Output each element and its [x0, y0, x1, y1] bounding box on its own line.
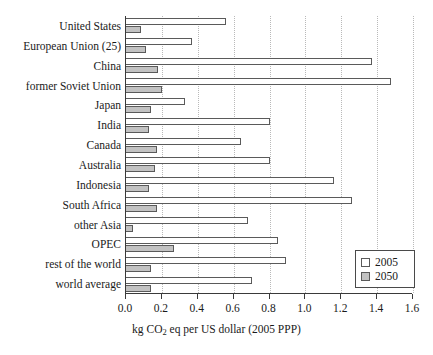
bar-2050 — [126, 66, 158, 73]
x-tick-label: 0.6 — [225, 301, 239, 315]
bar-2050 — [126, 285, 151, 292]
bar-2005 — [126, 257, 286, 264]
bar-2050 — [126, 46, 146, 53]
x-tick — [125, 294, 126, 299]
bar-group — [126, 115, 412, 135]
bar-2050 — [126, 265, 151, 272]
x-tick — [197, 294, 198, 299]
legend-label: 2050 — [375, 270, 398, 283]
bar-group — [126, 95, 412, 115]
x-tick-label: 0.0 — [118, 301, 132, 315]
x-tick — [412, 294, 413, 299]
bar-2050 — [126, 245, 174, 252]
x-axis-title-post: eq per US dollar (2005 PPP) — [167, 323, 301, 335]
category-label: Japan — [0, 99, 121, 111]
x-axis-tick-labels: 0.00.20.40.60.81.01.21.41.6 — [0, 301, 433, 317]
bar-group — [126, 215, 412, 235]
category-label: world average — [0, 278, 121, 290]
x-tick — [233, 294, 234, 299]
category-label: Australia — [0, 159, 121, 171]
bar-2005 — [126, 98, 185, 105]
x-axis-title: kg CO2 eq per US dollar (2005 PPP) — [0, 322, 433, 338]
bar-2050 — [126, 126, 149, 133]
bar-group — [126, 56, 412, 76]
bar-group — [126, 36, 412, 56]
bar-group — [126, 76, 412, 96]
x-tick-label: 1.2 — [333, 301, 347, 315]
category-label: India — [0, 119, 121, 131]
bar-group — [126, 195, 412, 215]
bar-2005 — [126, 157, 270, 164]
bar-2005 — [126, 197, 352, 204]
x-tick-label: 0.8 — [261, 301, 275, 315]
bar-2005 — [126, 217, 248, 224]
bar-2005 — [126, 237, 278, 244]
x-tick — [161, 294, 162, 299]
bar-2005 — [126, 38, 192, 45]
x-tick-label: 1.6 — [405, 301, 419, 315]
category-label: China — [0, 60, 121, 72]
bar-2050 — [126, 225, 133, 232]
legend-swatch-icon — [361, 258, 370, 267]
legend-item[interactable]: 2005 — [361, 255, 409, 269]
bar-group — [126, 16, 412, 36]
x-tick — [304, 294, 305, 299]
legend: 20052050 — [355, 250, 415, 288]
x-tick — [269, 294, 270, 299]
x-axis-title-subscript: 2 — [162, 327, 166, 337]
x-tick-label: 1.0 — [297, 301, 311, 315]
x-tick — [376, 294, 377, 299]
bar-2050 — [126, 185, 149, 192]
x-tick — [340, 294, 341, 299]
bar-2005 — [126, 138, 241, 145]
category-label: Canada — [0, 139, 121, 151]
bar-2005 — [126, 78, 391, 85]
bar-2050 — [126, 26, 141, 33]
bar-2050 — [126, 146, 157, 153]
bar-2005 — [126, 18, 226, 25]
bar-2050 — [126, 86, 162, 93]
category-label: former Soviet Union — [0, 80, 121, 92]
x-axis-ticks — [125, 294, 412, 300]
x-axis-title-pre: kg CO — [132, 323, 162, 335]
x-tick-label: 0.4 — [190, 301, 204, 315]
x-tick-label: 1.4 — [369, 301, 383, 315]
bar-2005 — [126, 58, 372, 65]
category-axis-labels: United StatesEuropean Union (25)Chinafor… — [0, 16, 121, 294]
category-label: South Africa — [0, 199, 121, 211]
legend-item[interactable]: 2050 — [361, 269, 409, 283]
category-label: OPEC — [0, 238, 121, 250]
category-label: Indonesia — [0, 179, 121, 191]
bar-2005 — [126, 118, 270, 125]
bar-group — [126, 155, 412, 175]
category-label: United States — [0, 20, 121, 32]
bar-2005 — [126, 177, 334, 184]
bar-group — [126, 135, 412, 155]
x-tick-label: 0.2 — [154, 301, 168, 315]
category-label: European Union (25) — [0, 40, 121, 52]
bar-2050 — [126, 205, 157, 212]
bar-2005 — [126, 277, 252, 284]
legend-swatch-icon — [361, 272, 370, 281]
co2-intensity-bar-chart: United StatesEuropean Union (25)Chinafor… — [0, 0, 433, 355]
bar-group — [126, 175, 412, 195]
bar-2050 — [126, 106, 151, 113]
category-label: rest of the world — [0, 258, 121, 270]
category-label: other Asia — [0, 219, 121, 231]
bar-2050 — [126, 165, 155, 172]
legend-label: 2005 — [375, 256, 398, 269]
